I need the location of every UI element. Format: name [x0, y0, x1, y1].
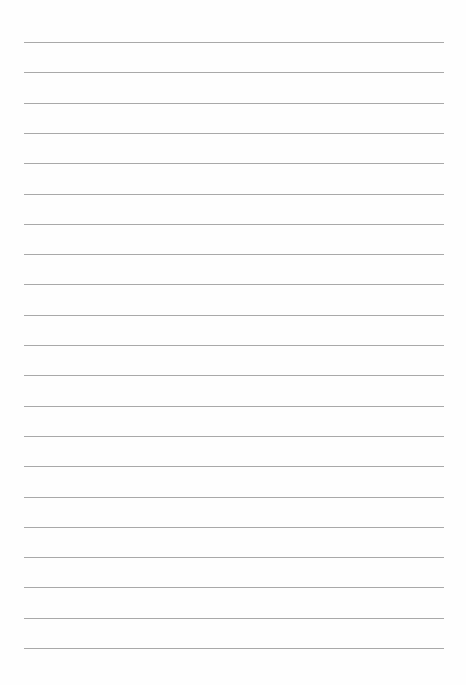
- ruled-line: [24, 345, 444, 346]
- ruled-line: [24, 618, 444, 619]
- ruled-line: [24, 466, 444, 467]
- ruled-line: [24, 436, 444, 437]
- ruled-line: [24, 375, 444, 376]
- ruled-line: [24, 72, 444, 73]
- ruled-line: [24, 254, 444, 255]
- ruled-line: [24, 406, 444, 407]
- ruled-line: [24, 315, 444, 316]
- ruled-line: [24, 497, 444, 498]
- ruled-line: [24, 587, 444, 588]
- ruled-line: [24, 42, 444, 43]
- ruled-line: [24, 224, 444, 225]
- ruled-line: [24, 557, 444, 558]
- ruled-line: [24, 163, 444, 164]
- lined-paper-page: [0, 0, 466, 685]
- ruled-line: [24, 103, 444, 104]
- ruled-line: [24, 284, 444, 285]
- ruled-line: [24, 133, 444, 134]
- ruled-line: [24, 648, 444, 649]
- ruled-line: [24, 527, 444, 528]
- ruled-line: [24, 194, 444, 195]
